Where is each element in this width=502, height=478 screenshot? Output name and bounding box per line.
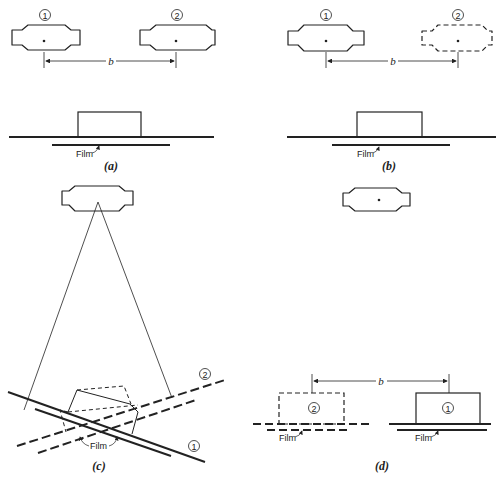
xray-source-1 [12, 25, 80, 50]
caption-d: (d) [375, 459, 389, 473]
table-film-1 [8, 392, 205, 462]
svg-text:2: 2 [174, 11, 179, 21]
svg-text:b: b [378, 375, 384, 387]
svg-text:Film: Film [357, 149, 374, 159]
source-label-2: 2 [453, 10, 464, 21]
distance-b: b [326, 52, 458, 68]
film-label: Film [80, 437, 117, 451]
object [78, 112, 141, 137]
film-label: Film [76, 146, 99, 159]
line-label-2: 2 [200, 369, 211, 380]
svg-text:1: 1 [323, 11, 328, 21]
distance-b: b [44, 52, 176, 68]
svg-text:2: 2 [311, 404, 316, 414]
panel-c: 2 1 Film (c) [8, 186, 225, 473]
beam-lines [24, 202, 172, 410]
svg-text:b: b [390, 55, 396, 67]
caption-a: (a) [104, 159, 118, 173]
svg-text:Film: Film [415, 433, 432, 443]
distance-b: b [312, 374, 449, 393]
svg-text:1: 1 [191, 442, 196, 452]
line-label-1: 1 [189, 441, 200, 452]
svg-text:Film: Film [90, 441, 107, 451]
stereo-radiography-diagram: 1 2 b Film (a) [0, 0, 502, 478]
svg-text:2: 2 [202, 370, 207, 380]
film-label: Film [357, 147, 379, 159]
caption-b: (b) [382, 159, 396, 173]
xray-source [343, 188, 410, 211]
object [357, 112, 422, 137]
xray-source-2 [140, 25, 215, 50]
panel-b: 1 2 b Film (b) [287, 10, 496, 174]
svg-text:b: b [108, 55, 114, 67]
object-position-1 [60, 390, 138, 432]
caption-c: (c) [92, 459, 105, 473]
source-label-1: 1 [40, 10, 51, 21]
xray-source-1 [288, 25, 364, 51]
svg-text:Film: Film [279, 433, 296, 443]
svg-text:2: 2 [455, 11, 460, 21]
xray-source [62, 186, 133, 211]
source-label-1: 1 [321, 10, 332, 21]
source-label-2: 2 [172, 10, 183, 21]
object-2-dashed: 2 [279, 393, 344, 424]
film-label-1: Film [415, 431, 438, 443]
object-1: 1 [416, 393, 480, 424]
film-label-2: Film [279, 431, 302, 443]
svg-text:1: 1 [445, 404, 450, 414]
panel-d: b 2 Film 1 Film (d) [253, 188, 491, 473]
svg-text:Film: Film [76, 149, 93, 159]
svg-text:1: 1 [42, 11, 47, 21]
xray-source-2-dashed [422, 25, 492, 51]
panel-a: 1 2 b Film (a) [9, 10, 215, 174]
